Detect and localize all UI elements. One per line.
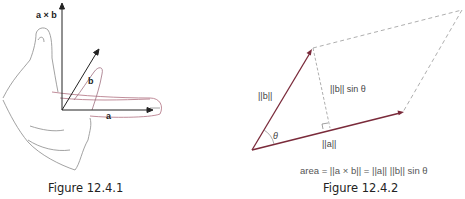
label-a-cross-b: a × b	[36, 10, 57, 20]
arrowhead-icon	[94, 49, 100, 55]
label-vector-a: a	[106, 111, 112, 121]
height-line	[313, 48, 330, 128]
arrowhead-icon	[398, 111, 405, 116]
arrowhead-icon	[307, 49, 313, 56]
right-hand-axes	[60, 3, 154, 113]
label-vector-b: b	[88, 76, 94, 86]
label-norm-a: ||a||	[322, 139, 336, 149]
parallelogram	[252, 10, 462, 150]
label-theta: θ	[273, 131, 278, 141]
right-angle-marker	[322, 123, 328, 129]
figure-2-caption: Figure 12.4.2	[323, 181, 398, 195]
area-formula: area = ||a × b|| = ||a|| ||b|| sin θ	[300, 165, 428, 176]
arrowhead-icon	[60, 3, 65, 9]
vector-b	[252, 53, 310, 150]
label-height: ||b|| sin θ	[330, 84, 366, 94]
figure-1-caption: Figure 12.4.1	[48, 181, 123, 195]
hand-illustration	[3, 28, 162, 170]
label-norm-b: ||b||	[258, 91, 272, 101]
dashed-top-side	[313, 10, 462, 48]
dashed-right-side	[403, 10, 462, 112]
